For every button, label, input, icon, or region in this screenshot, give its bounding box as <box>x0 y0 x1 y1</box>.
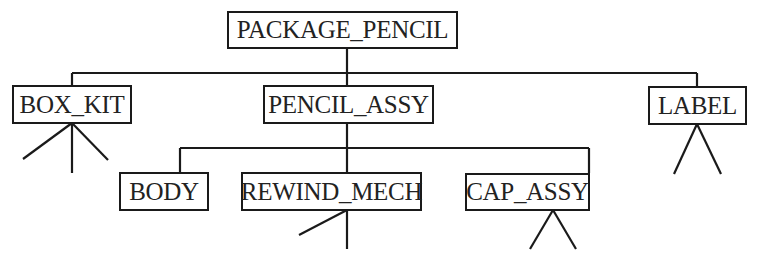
node-cap-assy: CAP_ASSY <box>465 173 590 211</box>
box-kit-branch-left <box>23 123 72 159</box>
node-package-pencil: PACKAGE_PENCIL <box>227 11 458 49</box>
cap-assy-branch-right <box>553 210 576 249</box>
node-rewind-mech: REWIND_MECH <box>241 172 422 211</box>
label-branch-right <box>697 124 721 174</box>
node-body: BODY <box>119 172 209 211</box>
label-branch-left <box>674 124 697 174</box>
rewind-mech-branch-left <box>299 210 347 235</box>
box-kit-branch-right <box>72 123 108 160</box>
node-box-kit: BOX_KIT <box>12 85 132 124</box>
node-pencil-assy: PENCIL_ASSY <box>263 85 434 124</box>
product-tree-diagram: PACKAGE_PENCIL BOX_KIT PENCIL_ASSY LABEL… <box>0 0 758 263</box>
cap-assy-branch-left <box>530 210 553 249</box>
node-label: LABEL <box>648 86 747 125</box>
